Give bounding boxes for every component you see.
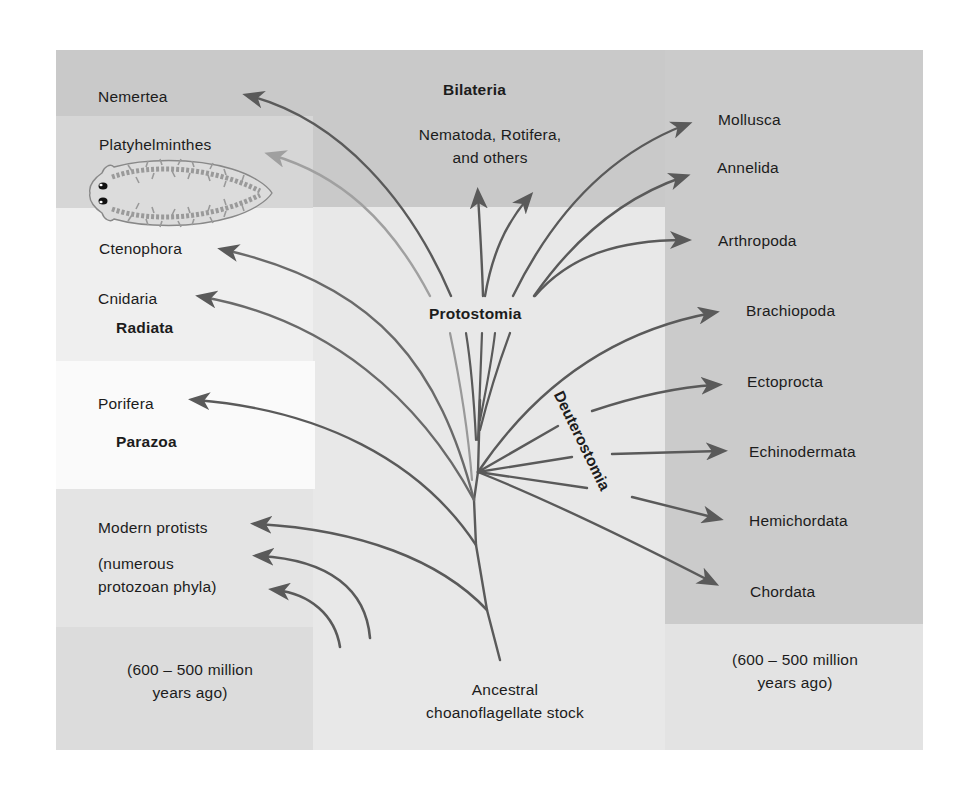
branch-ectoprocta-outer [592,385,715,411]
phylum-label-nemertea: Nemertea [98,87,168,106]
group-label-bilateria: Bilateria [443,80,506,99]
label-nematoda-line2: and others [385,148,595,167]
time-label-left-line2: years ago) [90,683,290,702]
phylum-label-porifera: Porifera [98,394,154,413]
branch-ctenophora [225,250,474,500]
branch-protozoan-2 [276,590,340,647]
group-label-protostomia: Protostomia [429,304,522,323]
label-nematoda-line1: Nematoda, Rotifera, [385,125,595,144]
branch-hemichordata-inner [478,472,587,488]
group-label-radiata: Radiata [116,318,173,337]
phylum-label-mollusca: Mollusca [718,110,781,129]
branch-annelida [534,177,683,296]
phylogeny-diagram: Bilateria Protostomia Radiata Parazoa De… [0,0,967,790]
branch-echinodermata-outer [612,451,720,454]
time-label-left-line1: (600 – 500 million [90,660,290,679]
phylum-label-chordata: Chordata [750,582,815,601]
branch-hemichordata-outer [632,497,716,518]
label-protozoan-line1: (numerous [98,554,174,573]
phylum-label-annelida: Annelida [717,158,779,177]
label-modern-protists: Modern protists [98,518,208,537]
branch-nematoda-1 [478,195,483,296]
phylum-label-cnidaria: Cnidaria [98,289,157,308]
root-label-line2: choanoflagellate stock [405,703,605,722]
phylum-label-ectoprocta: Ectoprocta [747,372,823,391]
root-label-line1: Ancestral [405,680,605,699]
label-protozoan-line2: protozoan phyla) [98,577,217,596]
branch-protozoan-1 [260,556,370,638]
phylum-label-platyhelminthes: Platyhelminthes [99,135,211,154]
group-label-parazoa: Parazoa [116,432,177,451]
branch-protostome-stem-b [466,333,476,440]
phylum-label-arthropoda: Arthropoda [718,231,797,250]
phylum-label-ctenophora: Ctenophora [99,239,182,258]
phylum-label-hemichordata: Hemichordata [749,511,848,530]
branch-protostome-stem-e [480,333,510,430]
branch-cnidaria [203,297,474,500]
flatworm-illustration-icon [82,155,278,231]
time-label-right-line2: years ago) [695,673,895,692]
branch-arthropoda [535,240,684,296]
phylum-label-brachiopoda: Brachiopoda [746,301,835,320]
branch-modern-protists [258,524,487,610]
branch-platyhelminthes [272,155,430,296]
phylum-label-echinodermata: Echinodermata [749,442,856,461]
time-label-right-line1: (600 – 500 million [695,650,895,669]
branch-porifera [196,400,476,545]
